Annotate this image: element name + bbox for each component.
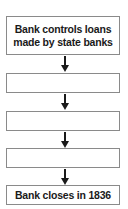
flow-box-1-line-1: Bank controls loans [13,23,113,36]
flow-box-1: Bank controls loans made by state banks [6,16,120,55]
flow-box-2 [6,73,120,93]
arrow-down-icon [62,169,68,185]
flow-box-3 [6,111,120,131]
flow-box-5: Bank closes in 1836 [6,185,120,205]
flow-box-1-line-2: made by state banks [13,36,113,49]
arrow-down-icon [62,56,68,72]
arrow-down-icon [62,132,68,148]
flow-box-4 [6,148,120,168]
flow-box-5-text: Bank closes in 1836 [15,189,111,202]
arrow-down-icon [62,94,68,110]
flow-box-1-text: Bank controls loans made by state banks [13,23,113,49]
